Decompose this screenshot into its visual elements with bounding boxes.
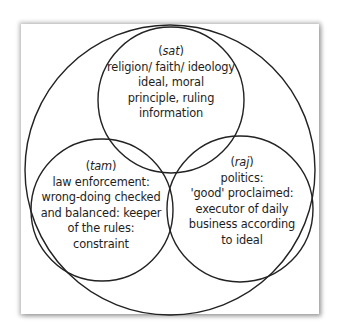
tam-line-4: of the rules: <box>26 221 176 237</box>
label-sat: (sat) religion/ faith/ ideology ideal, m… <box>96 44 246 122</box>
term-raj: (raj) <box>172 155 312 171</box>
tam-line-3: and balanced: keeper <box>26 206 176 222</box>
tam-line-2: wrong-doing checked <box>26 190 176 206</box>
raj-line-3: executor of daily <box>172 202 312 218</box>
sat-line-1: religion/ faith/ ideology <box>96 60 246 76</box>
tam-line-1: law enforcement: <box>26 175 176 191</box>
sat-line-4: information <box>96 106 246 122</box>
term-tam: (tam) <box>26 159 176 175</box>
term-sat: (sat) <box>96 44 246 60</box>
sat-line-2: ideal, moral <box>96 75 246 91</box>
tam-line-5: constraint <box>26 237 176 253</box>
raj-line-4: business according <box>172 217 312 233</box>
raj-line-5: to ideal <box>172 233 312 249</box>
label-raj: (raj) politics: 'good' proclaimed: execu… <box>172 155 312 249</box>
raj-line-2: 'good' proclaimed: <box>172 186 312 202</box>
sat-line-3: principle, ruling <box>96 91 246 107</box>
raj-line-1: politics: <box>172 171 312 187</box>
label-tam: (tam) law enforcement: wrong-doing check… <box>26 159 176 253</box>
